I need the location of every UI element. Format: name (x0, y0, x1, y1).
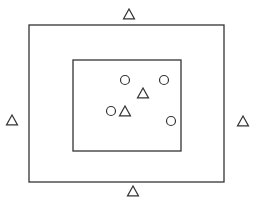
inner-2-circle-icon (160, 76, 169, 85)
outer-triangle-group (7, 9, 249, 196)
inner-3-circle-icon (107, 107, 116, 116)
inner-4-circle-icon (167, 117, 176, 126)
outer-rectangle (29, 25, 224, 182)
outer-right-triangle-icon (238, 116, 249, 126)
nested-rectangles-diagram (0, 0, 257, 210)
outer-top-triangle-icon (124, 9, 135, 19)
inner-1-circle-icon (121, 76, 130, 85)
inner-circle-group (107, 76, 176, 126)
inner-rectangle (73, 60, 181, 151)
outer-left-triangle-icon (7, 115, 18, 125)
inner-1-triangle-icon (138, 88, 149, 98)
outer-bottom-triangle-icon (128, 186, 139, 196)
inner-2-triangle-icon (120, 106, 131, 116)
inner-triangle-group (120, 88, 149, 116)
